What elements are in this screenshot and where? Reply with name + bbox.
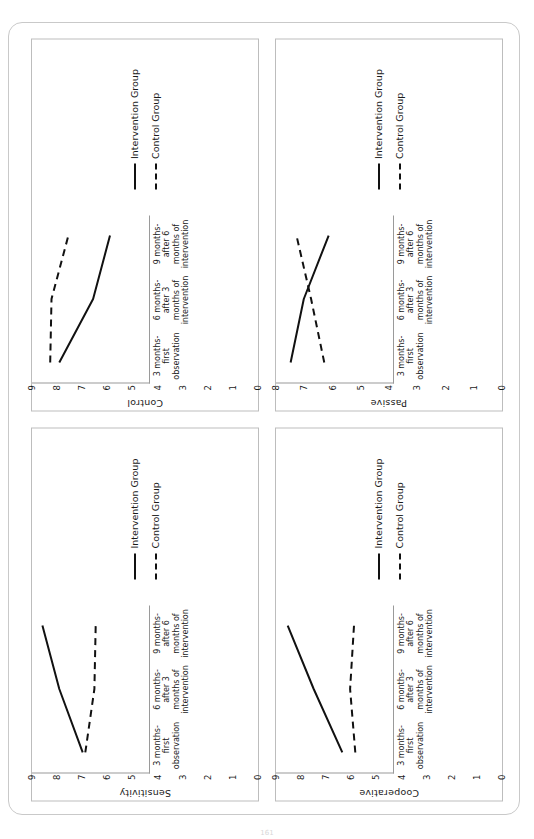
legend-label-control: Control Group	[150, 92, 161, 158]
x-axis-tick-label: 3 months-firstobservation	[153, 717, 258, 773]
figure-passive: Passive 012345678 3 months-firstobservat…	[275, 38, 503, 412]
series-line-solid	[59, 236, 110, 363]
legend-label-intervention: Intervention Group	[129, 458, 140, 548]
legend-label-intervention: Intervention Group	[129, 69, 140, 159]
plot-column: 3 months-firstobservation6 months-after …	[32, 216, 258, 384]
plot-column: 3 months-firstobservation6 months-after …	[276, 216, 502, 384]
y-axis-tick-label: 8	[53, 774, 62, 779]
legend-item-intervention: Intervention Group	[129, 458, 140, 579]
y-axis-tick-label: 6	[328, 385, 337, 390]
y-axis-tick-label: 9	[272, 774, 281, 779]
dashed-line-swatch-icon	[399, 553, 401, 579]
y-axis-ticks: 0123456789	[32, 384, 258, 397]
series-line-solid	[42, 625, 82, 752]
y-axis-tick-label: 2	[204, 774, 213, 779]
series-lines	[276, 605, 393, 772]
chart-passive: Passive 012345678 3 months-firstobservat…	[276, 39, 502, 411]
x-axis-tick-label: 3 months-firstobservation	[153, 328, 258, 384]
plot-area	[32, 605, 150, 773]
series-line-dashed	[350, 625, 355, 752]
legend-item-intervention: Intervention Group	[129, 69, 140, 190]
y-axis-tick-label: 3	[178, 774, 187, 779]
y-axis-title: Control	[32, 397, 258, 411]
x-axis-labels: 3 months-firstobservation6 months-after …	[394, 605, 502, 773]
x-axis-labels: 3 months-firstobservation6 months-after …	[150, 605, 258, 773]
figure-control: Control 0123456789 3 months-firstobserva…	[31, 38, 259, 412]
x-axis-tick-label: 6 months-after 3months ofintervention	[397, 661, 502, 717]
figure-grid: Sensitivity 0123456789 3 months-firstobs…	[17, 22, 517, 817]
x-axis-tick-label: 3 months-firstobservation	[397, 717, 502, 773]
scanned-page: Sensitivity 0123456789 3 months-firstobs…	[0, 0, 534, 839]
y-axis-tick-label: 4	[397, 774, 406, 779]
legend-item-control: Control Group	[394, 482, 405, 579]
series-line-dashed	[85, 625, 95, 752]
y-axis-tick-label: 4	[385, 385, 394, 390]
legend: Intervention Group Control Group	[32, 39, 258, 216]
y-axis-tick-label: 9	[28, 385, 37, 390]
figure-cooperative: Cooperative 0123456789 3 months-firstobs…	[275, 428, 503, 802]
x-axis-tick-label: 6 months-after 3months ofintervention	[153, 272, 258, 328]
solid-line-swatch-icon	[378, 164, 380, 190]
dashed-line-swatch-icon	[399, 164, 401, 190]
y-axis-tick-label: 2	[448, 774, 457, 779]
y-axis-tick-label: 1	[229, 774, 238, 779]
legend-label-control: Control Group	[394, 482, 405, 548]
plot-area	[32, 216, 150, 384]
y-axis-tick-label: 1	[473, 774, 482, 779]
y-axis-tick-label: 3	[178, 385, 187, 390]
y-axis-tick-label: 0	[254, 774, 263, 779]
y-axis-tick-label: 5	[372, 774, 381, 779]
document-content-rotated: Sensitivity 0123456789 3 months-firstobs…	[17, 22, 517, 817]
x-axis-tick-label: 9 months-after 6months ofintervention	[397, 216, 502, 272]
x-axis-labels: 3 months-firstobservation6 months-after …	[150, 216, 258, 384]
chart-cooperative: Cooperative 0123456789 3 months-firstobs…	[276, 429, 502, 801]
y-axis-tick-label: 6	[103, 385, 112, 390]
chart-sensitivity: Sensitivity 0123456789 3 months-firstobs…	[32, 429, 258, 801]
y-axis-tick-label: 4	[153, 385, 162, 390]
y-axis-tick-label: 5	[357, 385, 366, 390]
x-axis-tick-label: 9 months-after 6months ofintervention	[397, 605, 502, 661]
legend-label-control: Control Group	[150, 482, 161, 548]
y-axis-ticks: 0123456789	[32, 773, 258, 786]
series-line-solid	[291, 236, 329, 363]
legend-label-control: Control Group	[394, 92, 405, 158]
legend-item-intervention: Intervention Group	[373, 458, 384, 579]
legend: Intervention Group Control Group	[276, 429, 502, 606]
y-axis-tick-label: 6	[347, 774, 356, 779]
plot-column: 3 months-firstobservation6 months-after …	[32, 605, 258, 773]
legend-item-control: Control Group	[150, 92, 161, 189]
series-lines	[32, 216, 149, 383]
figure-sensitivity: Sensitivity 0123456789 3 months-firstobs…	[31, 428, 259, 802]
x-axis-tick-label: 6 months-after 3months ofintervention	[153, 661, 258, 717]
x-axis-tick-label: 9 months-after 6months ofintervention	[153, 216, 258, 272]
chart-control: Control 0123456789 3 months-firstobserva…	[32, 39, 258, 411]
y-axis-title: Passive	[276, 397, 502, 411]
y-axis-tick-label: 8	[297, 774, 306, 779]
y-axis-tick-label: 2	[441, 385, 450, 390]
legend: Intervention Group Control Group	[32, 429, 258, 606]
y-axis-tick-label: 0	[498, 385, 507, 390]
solid-line-swatch-icon	[134, 164, 136, 190]
series-lines	[276, 216, 393, 383]
dashed-line-swatch-icon	[155, 553, 157, 579]
y-axis-tick-label: 7	[322, 774, 331, 779]
y-axis-title: Sensitivity	[32, 786, 258, 800]
y-axis-tick-label: 1	[470, 385, 479, 390]
x-axis-tick-label: 3 months-firstobservation	[397, 328, 502, 384]
y-axis-tick-label: 8	[53, 385, 62, 390]
series-line-solid	[288, 625, 343, 752]
y-axis-ticks: 012345678	[276, 384, 502, 397]
legend-item-intervention: Intervention Group	[373, 69, 384, 190]
y-axis-tick-label: 2	[204, 385, 213, 390]
y-axis-tick-label: 7	[300, 385, 309, 390]
legend-label-intervention: Intervention Group	[373, 458, 384, 548]
y-axis-tick-label: 0	[254, 385, 263, 390]
x-axis-tick-label: 6 months-after 3months ofintervention	[397, 272, 502, 328]
y-axis-title: Cooperative	[276, 786, 502, 800]
legend: Intervention Group Control Group	[276, 39, 502, 216]
y-axis-tick-label: 5	[128, 774, 137, 779]
y-axis-tick-label: 7	[78, 385, 87, 390]
y-axis-tick-label: 4	[153, 774, 162, 779]
y-axis-ticks: 0123456789	[276, 773, 502, 786]
solid-line-swatch-icon	[134, 553, 136, 579]
